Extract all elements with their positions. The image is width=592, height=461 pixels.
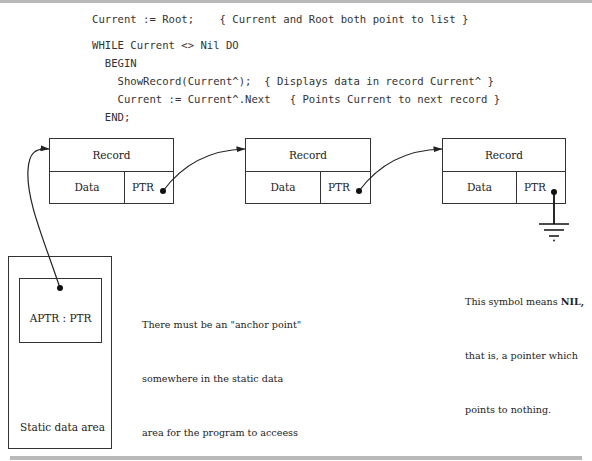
nil-keyword: NIL,: [561, 296, 584, 307]
bottom-border-band: [10, 456, 582, 460]
anchor-note: There must be an "anchor point" somewher…: [142, 280, 301, 461]
static-data-area: APTR : PTR Static data area: [8, 256, 112, 449]
record-node-3: Record Data PTR: [442, 138, 566, 204]
record-node-1: Record Data PTR: [49, 138, 174, 204]
nil-note: This symbol means NIL, that is, a pointe…: [465, 257, 584, 437]
nil-note-line: that is, a pointer which: [465, 347, 584, 365]
anchor-note-line: somewhere in the static data: [142, 370, 301, 388]
code-line-6: END;: [92, 111, 130, 123]
anchor-note-line: There must be an "anchor point": [142, 316, 301, 334]
record-data-field: Data: [50, 171, 125, 203]
anchor-note-line: area for the program to acceess: [142, 424, 301, 442]
record-node-2: Record Data PTR: [245, 138, 371, 204]
code-line-1: Current := Root; { Current and Root both…: [92, 13, 468, 25]
record-header: Record: [50, 139, 173, 172]
record-header: Record: [443, 139, 565, 172]
record-ptr-field: PTR: [124, 171, 173, 203]
top-border-band: [0, 0, 592, 3]
record-data-field: Data: [246, 171, 321, 203]
static-area-label: Static data area: [20, 421, 105, 433]
code-line-5: Current := Current^.Next { Points Curren…: [92, 93, 500, 105]
nil-note-line: This symbol means NIL,: [465, 293, 584, 311]
nil-note-line: points to nothing.: [465, 401, 584, 419]
record-ptr-field: PTR: [320, 171, 370, 203]
code-line-2: WHILE Current <> Nil DO: [92, 39, 239, 51]
record-header: Record: [246, 139, 370, 172]
anchor-pointer-box: APTR : PTR: [19, 278, 102, 343]
record-ptr-field: PTR: [516, 171, 565, 203]
code-line-4: ShowRecord(Current^); { Displays data in…: [92, 75, 494, 87]
code-line-3: BEGIN: [92, 57, 137, 69]
record-data-field: Data: [443, 171, 517, 203]
anchor-pointer-label: APTR : PTR: [30, 312, 92, 324]
